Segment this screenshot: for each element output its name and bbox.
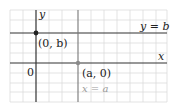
point-a-0 (76, 61, 80, 65)
coordinate-diagram: y x y = b 0 (0, b) (a, 0) x = a (0, 0, 173, 109)
line-y-equals-b-label: y = b (139, 20, 169, 33)
point-0-b-label: (0, b) (38, 37, 68, 50)
origin-label: 0 (27, 66, 34, 79)
point-0-b (34, 31, 39, 36)
point-a-0-label: (a, 0) (82, 67, 111, 80)
y-axis-label: y (38, 8, 46, 21)
x-axis-label: x (158, 50, 165, 63)
line-x-equals-a-label: x = a (82, 83, 108, 94)
